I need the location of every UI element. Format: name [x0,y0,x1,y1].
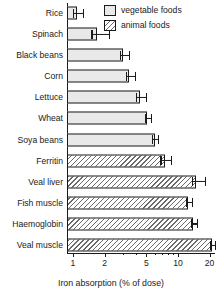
legend-swatch-vegetable-icon [104,5,116,16]
x-minor-tick-9 [173,253,174,255]
error-bar [136,97,146,98]
category-label-rice: Rice [46,9,63,18]
error-cap-low [73,9,74,18]
x-tick-label-5: 5 [144,259,149,268]
error-bar [160,160,171,161]
iron-absorption-bar-chart: RiceSpinachBlack beansCornLettuceWheatSo… [0,0,222,294]
bar-fish-muscle [67,196,188,209]
x-tick-20 [210,253,211,257]
bar-row [67,154,215,167]
category-label-soya-beans: Soya beans [18,135,63,144]
legend-item-animal: animal foods [104,19,182,32]
error-cap-low [210,241,211,250]
error-cap-high [135,72,136,81]
error-cap-low [91,30,92,39]
bar-row [67,133,215,146]
legend: vegetable foods animal foods [104,4,182,34]
x-tick-label-2: 2 [102,259,107,268]
x-tick-label-20: 20 [205,259,215,268]
error-bar [120,55,129,56]
error-cap-high [171,156,172,165]
bar-row [67,112,215,125]
bar-ferritin [67,154,165,167]
error-cap-low [126,72,127,81]
error-bar [73,12,83,13]
category-label-haemoglobin: Haemoglobin [12,220,63,229]
legend-label-animal: animal foods [121,21,170,30]
x-minor-tick-7 [162,253,163,255]
error-cap-low [186,198,187,207]
bar-soya-beans [67,133,155,146]
error-cap-low [192,177,193,186]
plot-area: 1251020 [67,3,222,253]
error-cap-high [158,135,159,144]
x-axis-line [67,253,215,254]
x-tick-5 [146,253,147,257]
category-label-wheat: Wheat [38,114,63,123]
error-cap-low [120,51,121,60]
x-axis-title: Iron absorption (% of dose) [0,278,222,288]
x-minor-tick-4 [136,253,137,255]
legend-swatch-animal-icon [104,20,116,31]
x-tick-10 [178,253,179,257]
error-cap-low [152,135,153,144]
bar-row [67,70,215,83]
error-cap-low [160,156,161,165]
x-minor-tick-3 [123,253,124,255]
category-label-fish-muscle: Fish muscle [17,199,63,208]
category-label-veal-muscle: Veal muscle [17,241,63,250]
category-label-spinach: Spinach [32,30,63,39]
x-minor-tick-8 [168,253,169,255]
x-minor-tick-6 [155,253,156,255]
bar-veal-liver [67,175,196,188]
bar-black-beans [67,49,123,62]
error-cap-low [136,93,137,102]
bar-haemoglobin [67,217,193,230]
category-label-corn: Corn [44,72,63,81]
x-tick-1 [73,253,74,257]
category-label-ferritin: Ferritin [36,156,63,165]
category-label-lettuce: Lettuce [35,93,63,102]
bar-veal-muscle [67,239,212,252]
error-cap-low [145,114,146,123]
error-cap-high [197,219,198,228]
error-cap-low [191,219,192,228]
bar-row [67,175,215,188]
legend-item-vegetable: vegetable foods [104,4,182,17]
error-cap-high [146,93,147,102]
bar-row [67,217,215,230]
category-label-black-beans: Black beans [16,51,63,60]
error-cap-high [151,114,152,123]
bar-row [67,49,215,62]
bar-corn [67,70,129,83]
error-cap-high [129,51,130,60]
x-tick-2 [105,253,106,257]
error-cap-high [83,9,84,18]
x-tick-label-10: 10 [173,259,183,268]
bar-row [67,196,215,209]
bar-row [67,239,215,252]
category-label-veal-liver: Veal liver [28,177,63,186]
x-tick-label-1: 1 [71,259,76,268]
error-cap-high [205,177,206,186]
error-bar [192,181,205,182]
legend-label-vegetable: vegetable foods [121,6,182,15]
error-cap-high [215,241,216,250]
error-cap-high [192,198,193,207]
bar-wheat [67,112,147,125]
bar-row [67,91,215,104]
bar-lettuce [67,91,140,104]
error-bar [126,76,135,77]
